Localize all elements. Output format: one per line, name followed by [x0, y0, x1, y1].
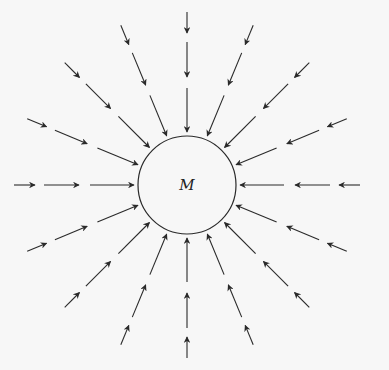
field-arrow: [65, 63, 80, 78]
field-arrow: [327, 119, 346, 127]
field-arrow: [118, 223, 149, 254]
field-arrow: [295, 293, 310, 308]
field-arrow: [150, 234, 167, 275]
field-arrow: [263, 261, 288, 286]
field-arrow: [287, 130, 319, 143]
field-arrow: [132, 53, 145, 85]
field-arrow: [86, 84, 111, 109]
field-arrow: [263, 84, 288, 109]
field-arrow: [65, 293, 80, 308]
field-arrow: [327, 243, 346, 251]
field-arrow: [225, 116, 256, 147]
mass-label: M: [178, 176, 195, 194]
field-arrow: [245, 325, 253, 344]
field-arrow: [132, 285, 145, 317]
field-arrow: [97, 148, 138, 165]
field-arrow: [207, 234, 224, 275]
field-arrow: [27, 243, 46, 251]
field-arrow: [236, 205, 277, 222]
field-arrow: [245, 25, 253, 44]
field-arrow: [86, 261, 111, 286]
field-arrow: [228, 285, 241, 317]
field-arrow: [295, 63, 310, 78]
field-arrow: [287, 226, 319, 239]
field-arrow: [121, 325, 129, 344]
field-arrow: [236, 148, 277, 165]
field-arrow: [55, 130, 87, 143]
field-arrow: [97, 205, 138, 222]
field-arrow: [207, 95, 224, 136]
field-arrow: [150, 95, 167, 136]
field-arrow: [225, 223, 256, 254]
field-arrow: [118, 116, 149, 147]
field-arrow: [228, 53, 241, 85]
field-arrow: [27, 119, 46, 127]
field-lines-diagram: M: [0, 0, 389, 370]
field-arrow: [55, 226, 87, 239]
field-arrow: [121, 25, 129, 44]
